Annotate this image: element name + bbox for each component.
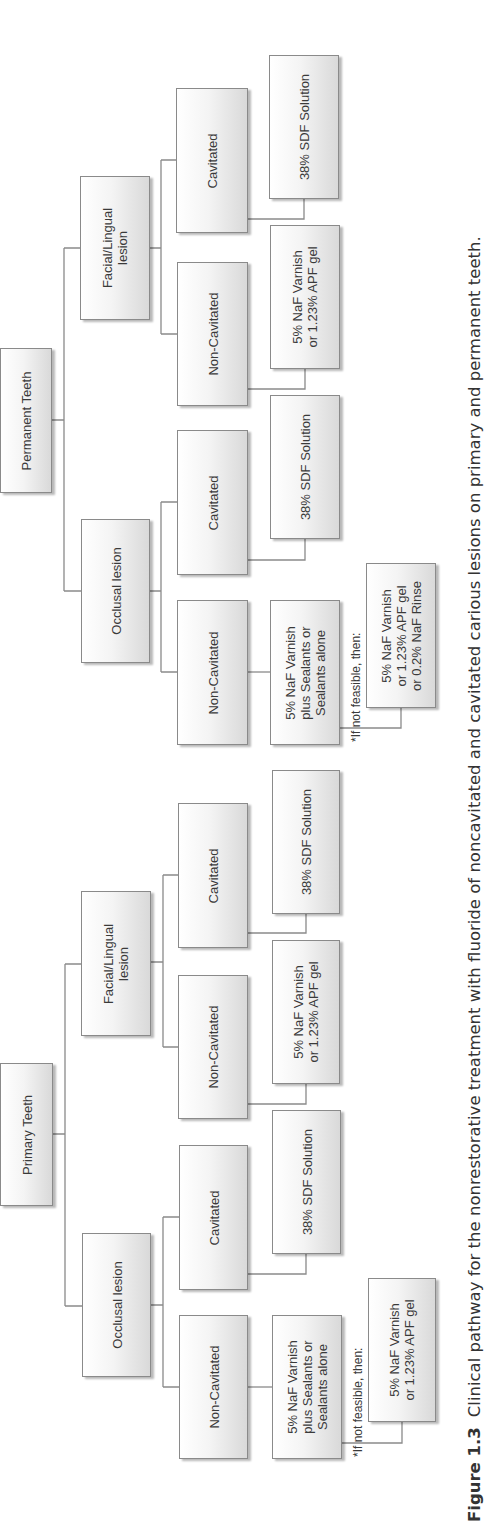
node-primary-occ-non-cavitated: Non-Cavitated <box>179 1315 248 1459</box>
treatment-label: 38% SDF Solution <box>298 414 313 520</box>
connector-primary-fl-noncav <box>248 1084 306 1104</box>
clinical-pathway-diagram: Permanent Teeth Facial/Lingual lesion Oc… <box>0 0 491 1528</box>
treatment-label: or 1.23% APF gel <box>305 246 320 347</box>
node-label: Primary Teeth <box>19 1095 34 1175</box>
node-permanent-teeth: Permanent Teeth <box>0 348 52 493</box>
treatment-label: 5% NaF Varnish <box>379 581 394 691</box>
connector-permanent-root <box>52 248 81 591</box>
treatment-label: 38% SDF Solution <box>299 1129 314 1235</box>
node-label: Non-Cavitated <box>205 292 220 375</box>
node-label: Permanent Teeth <box>19 371 34 470</box>
node-label: lesion <box>115 208 130 288</box>
node-label: Non-Cavitated <box>206 1345 221 1428</box>
caption-text: Clinical pathway for the nonrestorative … <box>465 236 484 1417</box>
node-label: Cavitated <box>205 475 220 530</box>
node-primary-teeth: Primary Teeth <box>0 1063 53 1206</box>
node-permanent-fl-non-cavitated: Non-Cavitated <box>177 262 248 406</box>
node-label: Occlusal lesion <box>109 1261 124 1348</box>
node-primary-occ-cav-treatment: 38% SDF Solution <box>272 1110 341 1254</box>
treatment-label: 5% NaF Varnish <box>290 246 305 347</box>
node-label: Non-Cavitated <box>205 631 220 714</box>
node-permanent-occ-non-cavitated: Non-Cavitated <box>177 600 248 745</box>
connector-primary-fl <box>151 875 178 1047</box>
node-primary-fl-non-cavitated: Non-Cavitated <box>178 975 248 1119</box>
node-primary-occ-noncav-treatment: 5% NaF Varnish plus Sealants or Sealants… <box>272 1315 342 1459</box>
node-label: lesion <box>116 923 131 1003</box>
connector-permanent-fl-cav <box>248 199 304 219</box>
treatment-label: 38% SDF Solution <box>297 74 312 180</box>
node-primary-occ-cavitated: Cavitated <box>179 1145 248 1290</box>
figure-label: Figure 1.3 <box>465 1427 484 1522</box>
treatment-label: 5% NaF Varnish <box>291 961 306 1062</box>
treatment-label: Sealants alone <box>313 626 328 720</box>
connector-permanent-occ <box>150 502 177 672</box>
node-permanent-occlusal-lesion: Occlusal lesion <box>81 519 150 663</box>
treatment-label: 38% SDF Solution <box>299 789 314 895</box>
treatment-label: 5% NaF Varnish <box>283 626 298 720</box>
node-primary-occlusal-lesion: Occlusal lesion <box>82 1233 151 1377</box>
connector-primary-occ <box>151 1217 179 1387</box>
node-label: Facial/Lingual <box>101 923 116 1003</box>
connector-permanent-fl <box>150 160 177 334</box>
node-label: Cavitated <box>205 133 220 188</box>
connector-primary-root <box>53 964 82 1306</box>
node-permanent-facial-lingual-lesion: Facial/Lingual lesion <box>80 176 150 320</box>
node-permanent-fl-cavitated: Cavitated <box>176 88 248 233</box>
treatment-label: or 1.23% APF gel <box>402 1299 417 1400</box>
connector-permanent-fl-noncav <box>248 369 305 389</box>
node-label: Non-Cavitated <box>206 1005 221 1088</box>
node-primary-fl-cavitated: Cavitated <box>178 803 248 948</box>
node-permanent-occ-noncav-treatment: 5% NaF Varnish plus Sealants or Sealants… <box>270 600 340 745</box>
connector-primary-occ-cav <box>248 1254 306 1274</box>
treatment-label: or 0.2% NaF Rinse <box>409 581 424 691</box>
treatment-label: Sealants alone <box>315 1340 330 1434</box>
node-label: Occlusal lesion <box>108 547 123 634</box>
node-label: Facial/Lingual <box>100 208 115 288</box>
node-label: Cavitated <box>206 848 221 903</box>
node-primary-facial-lingual-lesion: Facial/Lingual lesion <box>81 891 151 1036</box>
node-permanent-fl-noncav-treatment: 5% NaF Varnish or 1.23% APF gel <box>270 225 340 369</box>
node-permanent-occ-cavitated: Cavitated <box>177 430 248 575</box>
node-label: Cavitated <box>206 1190 221 1245</box>
treatment-label: 5% NaF Varnish <box>387 1299 402 1400</box>
treatment-label: plus Sealants or <box>298 626 313 720</box>
node-permanent-occ-fallback-treatment: 5% NaF Varnish or 1.23% APF gel or 0.2% … <box>366 563 436 708</box>
node-primary-occ-fallback-treatment: 5% NaF Varnish or 1.23% APF gel <box>368 1278 436 1422</box>
fallback-note-permanent: *If not feasible, then: <box>349 633 363 742</box>
connector-primary-fl-cav <box>248 914 306 933</box>
connector-permanent-occ-cav <box>248 539 305 560</box>
node-permanent-fl-cav-treatment: 38% SDF Solution <box>269 55 339 199</box>
treatment-label: plus Sealants or <box>300 1340 315 1434</box>
treatment-label: or 1.23% APF gel <box>394 581 409 691</box>
node-permanent-occ-cav-treatment: 38% SDF Solution <box>270 395 340 539</box>
figure-caption: Figure 1.3Clinical pathway for the nonre… <box>465 236 484 1522</box>
node-primary-fl-noncav-treatment: 5% NaF Varnish or 1.23% APF gel <box>272 940 340 1084</box>
treatment-label: or 1.23% APF gel <box>306 961 321 1062</box>
treatment-label: 5% NaF Varnish <box>285 1340 300 1434</box>
fallback-note-primary: *If not feasible, then: <box>351 1348 365 1457</box>
node-primary-fl-cav-treatment: 38% SDF Solution <box>272 770 340 914</box>
